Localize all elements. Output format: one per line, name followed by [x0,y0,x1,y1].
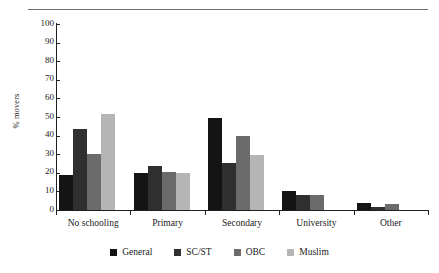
y-axis-tick-label: 90 [14,36,54,46]
legend-label: OBC [246,247,266,257]
y-axis-tick-label: 30 [14,148,54,158]
x-axis-tick-mark [205,211,206,215]
y-axis-tick-label: 50 [14,111,54,121]
y-axis-tick-label: 80 [14,55,54,65]
x-axis-tick-mark [428,211,429,215]
bar [222,163,236,210]
y-axis-tick-label: 20 [14,166,54,176]
bar [176,173,190,210]
bar [357,203,371,210]
y-axis-tick-label: 10 [14,185,54,195]
x-axis-category-label: University [279,218,353,228]
y-axis-tick-label: 70 [14,73,54,83]
bar [296,195,310,210]
chart-legend: GeneralSC/STOBCMuslim [0,247,439,257]
legend-item: General [110,247,152,257]
legend-item: SC/ST [174,247,211,257]
legend-label: SC/ST [186,247,211,257]
legend-swatch-icon [174,249,181,256]
x-axis-tick-mark [56,211,57,215]
legend-item: OBC [234,247,266,257]
y-axis-tick-label: 60 [14,92,54,102]
chart-figure: % movers 0102030405060708090100 No schoo… [0,0,439,273]
legend-label: General [122,247,152,257]
bar [148,166,162,210]
x-axis-tick-mark [130,211,131,215]
x-axis-category-label: Primary [130,218,204,228]
bar [385,204,399,210]
bar [236,136,250,210]
legend-swatch-icon [234,249,241,256]
top-divider-rule [28,9,428,10]
bar [310,195,324,210]
x-axis-category-label: Other [354,218,428,228]
bar [282,191,296,210]
x-axis-category-label: Secondary [205,218,279,228]
x-axis-category-label: No schooling [56,218,130,228]
bar [250,155,264,210]
bar [59,175,73,210]
bar [134,173,148,210]
y-axis-tick-label: 0 [14,204,54,214]
x-axis-tick-mark [354,211,355,215]
bar [101,114,115,210]
x-axis-line [56,210,429,211]
bar [87,154,101,210]
legend-label: Muslim [299,247,329,257]
x-axis-tick-mark [279,211,280,215]
legend-swatch-icon [110,249,117,256]
bar [208,118,222,210]
y-axis-tick-label: 100 [14,18,54,28]
bar [73,129,87,210]
y-axis-tick-label: 40 [14,129,54,139]
plot-area [56,24,428,210]
legend-item: Muslim [287,247,329,257]
bar [162,172,176,210]
legend-swatch-icon [287,249,294,256]
bar [371,207,385,210]
